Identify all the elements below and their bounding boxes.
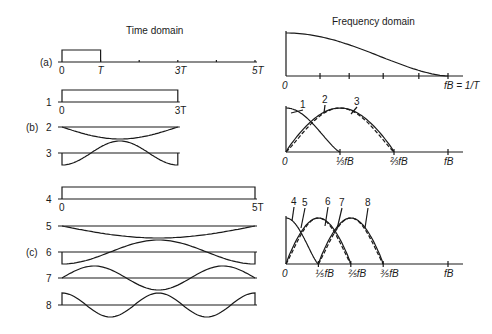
freq-tick-label: 0 bbox=[282, 268, 288, 279]
rect-pulse bbox=[62, 90, 178, 102]
section-label-c: (c) bbox=[26, 247, 38, 258]
time-tick-label: 3T bbox=[175, 105, 187, 116]
row-label: 2 bbox=[46, 122, 52, 133]
time-row-6: 6 bbox=[46, 240, 257, 264]
frequency-domain-title: Frequency domain bbox=[332, 16, 415, 27]
spectrum-curve-a bbox=[286, 33, 448, 76]
curve-label: 8 bbox=[365, 197, 371, 208]
section-label-b: (b) bbox=[26, 122, 38, 133]
time-row-5: 5 bbox=[46, 221, 257, 238]
freq-panel-c: 0⅕fB⅖fB⅗fBfB45678 bbox=[282, 196, 463, 279]
time-tick-label: 0 bbox=[59, 65, 65, 76]
rect-pulse bbox=[62, 50, 101, 62]
leader-line bbox=[301, 208, 305, 228]
time-tick-label: 5T bbox=[252, 202, 264, 213]
time-domain-waveforms: 0T3T5T103T23405T5678 bbox=[46, 50, 265, 317]
time-tick-label: T bbox=[98, 65, 105, 76]
freq-tick-label: ⅔fB bbox=[390, 156, 408, 167]
waveform bbox=[62, 127, 178, 139]
rect-pulse bbox=[62, 187, 255, 199]
spectrum-curve-7 bbox=[318, 218, 383, 264]
curve-label: 2 bbox=[322, 94, 328, 105]
curve-label: 1 bbox=[300, 99, 306, 110]
time-tick-label: 0 bbox=[59, 202, 65, 213]
time-tick-label: 5T bbox=[252, 65, 265, 76]
freq-tick-label: 0 bbox=[282, 80, 288, 91]
freq-tick-label: ⅓fB bbox=[336, 156, 354, 167]
diagram-canvas: Time domain Frequency domain (a) (b) (c)… bbox=[0, 0, 492, 334]
freq-tick-label: 0 bbox=[282, 156, 288, 167]
freq-tick-label: ⅖fB bbox=[347, 268, 367, 279]
time-domain-title: Time domain bbox=[126, 25, 183, 36]
section-label-a: (a) bbox=[40, 57, 52, 68]
frequency-domain-spectra: 0fB = 1/T0⅓fB⅔fBfB1230⅕fB⅖fB⅗fBfB45678 bbox=[282, 31, 480, 279]
freq-tick-label: ⅗fB bbox=[379, 268, 399, 279]
curve-label: 7 bbox=[339, 197, 345, 208]
waveform bbox=[62, 226, 255, 238]
spectrum-curve-1 bbox=[286, 108, 340, 152]
row-label: 8 bbox=[46, 300, 52, 311]
row-label: 7 bbox=[46, 273, 52, 284]
row-label: 6 bbox=[46, 247, 52, 258]
time-row-8: 8 bbox=[46, 293, 257, 317]
curve-label: 5 bbox=[302, 197, 308, 208]
time-tick-label: 3T bbox=[175, 65, 188, 76]
freq-tick-label: ⅕fB bbox=[314, 268, 334, 279]
time-row-a: 0T3T5T bbox=[58, 50, 265, 76]
freq-tick-label: fB bbox=[444, 268, 454, 279]
row-label: 4 bbox=[46, 194, 52, 205]
freq-panel-b: 0⅓fB⅔fBfB123 bbox=[282, 94, 463, 167]
curve-label: 4 bbox=[291, 196, 297, 207]
leader-line bbox=[365, 208, 368, 228]
curve-label: 6 bbox=[325, 196, 331, 207]
time-row-4: 405T bbox=[46, 187, 264, 213]
freq-panel-a: 0fB = 1/T bbox=[282, 31, 480, 91]
freq-tick-label: fB bbox=[444, 156, 454, 167]
time-row-7: 7 bbox=[46, 266, 257, 290]
freq-tick-label: fB = 1/T bbox=[444, 80, 480, 91]
curve-label: 3 bbox=[354, 96, 360, 107]
leader-line bbox=[292, 207, 294, 221]
row-label: 1 bbox=[46, 97, 52, 108]
time-tick-label: 0 bbox=[59, 105, 65, 116]
row-label: 3 bbox=[46, 148, 52, 159]
time-row-3: 3 bbox=[46, 141, 180, 165]
row-label: 5 bbox=[46, 221, 52, 232]
time-row-1: 103T bbox=[46, 90, 186, 116]
time-row-2: 2 bbox=[46, 122, 180, 139]
